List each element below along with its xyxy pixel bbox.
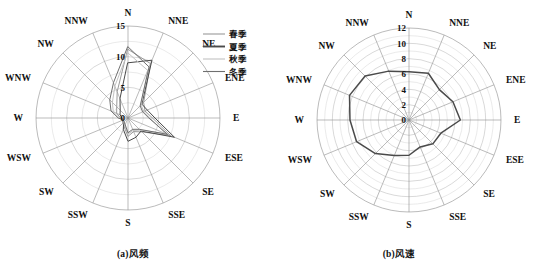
direction-label-sw: SW xyxy=(320,189,335,199)
direction-label-w: W xyxy=(295,115,305,125)
direction-label-n: N xyxy=(125,8,132,18)
radar-chart-wind-speed: NNNENEENEEESESESSESSSWSWWSWWWNWNWNNW 024… xyxy=(266,0,532,246)
direction-label-e: E xyxy=(514,115,520,125)
radial-tick-2: 2 xyxy=(402,100,407,110)
figure-container: NNNENEENEEESESESSESSSWSWWSWWWNWNWNNW 051… xyxy=(0,0,533,274)
direction-label-ne: NE xyxy=(483,41,496,51)
direction-label-nne: NNE xyxy=(168,16,188,26)
radar-chart-wind-frequency: NNNENEENEEESESESSESSSWSWWSWWWNWNWNNW 051… xyxy=(0,0,266,246)
radial-tick-10: 10 xyxy=(116,52,126,62)
direction-label-ese: ESE xyxy=(506,155,524,165)
radial-tick-10: 10 xyxy=(397,39,407,49)
direction-label-sw: SW xyxy=(39,187,54,197)
direction-label-w: W xyxy=(14,113,24,123)
panel-caption-a: (a)风频 xyxy=(0,246,266,260)
direction-label-ssw: SSW xyxy=(349,212,370,222)
direction-label-nnw: NNW xyxy=(65,16,89,26)
radial-tick-5: 5 xyxy=(121,83,126,93)
direction-label-ene: ENE xyxy=(506,75,526,85)
radial-tick-6: 6 xyxy=(402,69,407,79)
direction-label-nw: NW xyxy=(318,41,335,51)
radial-tick-0: 0 xyxy=(121,113,126,123)
direction-label-se: SE xyxy=(483,189,495,199)
direction-label-s: S xyxy=(125,218,130,228)
legend-label-3: 秋季 xyxy=(228,54,247,64)
direction-label-nw: NW xyxy=(37,39,54,49)
direction-label-nne: NNE xyxy=(449,18,469,28)
legend-label-4: 冬季 xyxy=(229,67,247,77)
panel-wind-speed: NNNENEENEEESESESSESSSWSWWSWWWNWNWNNW 024… xyxy=(266,0,532,274)
panel-caption-b: (b)风速 xyxy=(266,246,532,260)
direction-label-e: E xyxy=(233,113,239,123)
direction-label-wnw: WNW xyxy=(5,73,31,83)
panel-wind-frequency: NNNENEENEEESESESSESSSWSWWSWWWNWNWNNW 051… xyxy=(0,0,266,274)
direction-label-ssw: SSW xyxy=(68,210,89,220)
radial-tick-0: 0 xyxy=(402,115,407,125)
direction-label-sse: SSE xyxy=(449,212,466,222)
direction-label-se: SE xyxy=(202,187,214,197)
direction-label-nnw: NNW xyxy=(346,18,370,28)
direction-label-ese: ESE xyxy=(225,153,243,163)
direction-label-sse: SSE xyxy=(168,210,185,220)
legend-a: 春季夏季秋季冬季 xyxy=(203,29,247,77)
radial-tick-15: 15 xyxy=(116,21,126,31)
legend-label-2: 夏季 xyxy=(228,42,247,52)
direction-label-n: N xyxy=(406,10,413,20)
radial-tick-4: 4 xyxy=(402,85,407,95)
radar-grid-b xyxy=(317,28,501,212)
direction-label-wsw: WSW xyxy=(7,153,32,163)
direction-label-s: S xyxy=(406,220,411,230)
direction-label-wsw: WSW xyxy=(288,155,313,165)
legend-label-1: 春季 xyxy=(228,29,247,39)
direction-label-wnw: WNW xyxy=(286,75,312,85)
radial-tick-12: 12 xyxy=(397,23,407,33)
radial-tick-8: 8 xyxy=(402,54,407,64)
